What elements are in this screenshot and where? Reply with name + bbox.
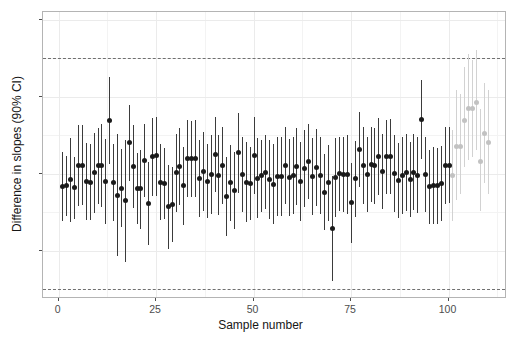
x-tick-mark [58,298,59,301]
y-tick-mark [39,96,42,97]
gridline-major-vertical [59,12,60,297]
gridline-minor-vertical [497,12,498,297]
data-point [209,172,214,177]
gridline-minor-vertical [205,12,206,297]
data-point [415,173,420,178]
chart-container: -0.10.00.10.2 0255075100 Sample number D… [0,0,521,337]
data-point [111,180,116,185]
data-point [142,158,147,163]
data-point [193,156,198,161]
data-point [419,117,424,122]
data-point [291,173,296,178]
data-point [271,182,276,187]
gridline-minor-vertical [107,12,108,297]
data-point [174,170,179,175]
data-point [408,177,413,182]
data-point [64,183,69,188]
data-point [205,179,210,184]
data-point [177,164,182,169]
data-point [88,180,93,185]
data-point [439,181,444,186]
x-tick-mark [253,298,254,301]
data-point [376,154,381,159]
data-point [462,118,467,123]
data-point [213,152,218,157]
data-point [450,173,455,178]
data-point [294,164,299,169]
data-point [357,147,362,152]
data-point [232,188,237,193]
data-point [361,163,366,168]
reference-line-lower [43,289,505,290]
data-point [236,150,241,155]
data-point [162,181,167,186]
data-point [131,164,136,169]
data-point [310,174,315,179]
x-tick-label: 100 [439,303,457,315]
data-point [318,173,323,178]
data-point [283,163,288,168]
y-tick-mark [39,19,42,20]
gridline-minor-horizontal [43,135,505,136]
data-point [392,171,397,176]
data-point [263,170,268,175]
x-axis-title: Sample number [0,318,521,332]
data-point [107,118,112,123]
x-tick-label: 50 [247,303,259,315]
x-tick-label: 75 [344,303,356,315]
data-point [138,186,143,191]
data-point [181,183,186,188]
data-point [127,140,132,145]
data-point [302,166,307,171]
gridline-minor-vertical [400,12,401,297]
data-point [423,172,428,177]
data-point [170,202,175,207]
data-point [353,176,358,181]
gridline-major-horizontal [43,251,505,252]
x-tick-label: 0 [55,303,61,315]
data-point [396,178,401,183]
data-point [314,165,319,170]
data-point [330,226,335,231]
data-point [197,176,202,181]
data-point [322,190,327,195]
y-tick-mark [39,173,42,174]
y-axis-title: Difference in slopes (90% CI) [10,4,24,304]
data-point [146,201,151,206]
data-point [474,100,479,105]
reference-line-upper [43,58,505,59]
data-point [248,181,253,186]
data-point [240,172,245,177]
data-point [80,163,85,168]
data-point [486,140,491,145]
data-point [349,200,354,205]
data-point [482,131,487,136]
data-point [306,159,311,164]
x-tick-mark [448,298,449,301]
data-point [458,144,463,149]
data-point [154,153,159,158]
data-point [123,198,128,203]
data-point [380,169,385,174]
data-point [404,170,409,175]
data-point [220,163,225,168]
data-point [345,172,350,177]
data-point [119,186,124,191]
plot-panel [42,11,506,298]
x-tick-mark [155,298,156,301]
data-point [224,194,229,199]
data-point [99,163,104,168]
data-point [68,177,73,182]
data-point [470,106,475,111]
data-point [252,153,257,158]
gridline-major-horizontal [43,97,505,98]
x-tick-mark [350,298,351,301]
data-point [372,163,377,168]
data-point [115,193,120,198]
data-point [478,159,483,164]
data-point [326,180,331,185]
data-point [216,173,221,178]
x-tick-label: 25 [149,303,161,315]
data-point [365,172,370,177]
data-point [279,174,284,179]
